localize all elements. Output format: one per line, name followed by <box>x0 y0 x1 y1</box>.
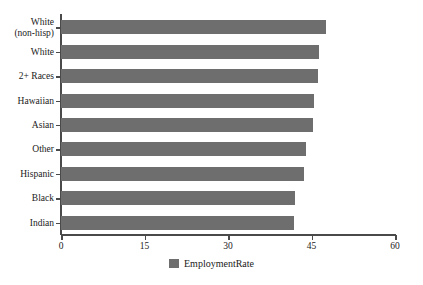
x-axis-tick <box>395 235 397 240</box>
x-axis-tick-label: 30 <box>223 241 233 251</box>
bar-row: Black <box>61 186 395 210</box>
plot-area: White(non-hisp)White2+ RacesHawaiianAsia… <box>61 15 395 235</box>
y-axis-label: 2+ Races <box>19 71 54 82</box>
y-axis-label: White <box>31 46 54 57</box>
y-axis-label: Other <box>32 144 54 155</box>
bar-employmentrate <box>61 69 318 83</box>
y-axis-label: Asian <box>32 120 54 131</box>
bar-row: Hispanic <box>61 162 395 186</box>
bar-employmentrate <box>61 167 304 181</box>
bar-employmentrate <box>61 142 306 156</box>
x-axis-tick <box>312 235 314 240</box>
x-axis-tick <box>228 235 230 240</box>
legend-label-employmentrate: EmploymentRate <box>184 258 254 269</box>
y-axis-label: Hawaiian <box>18 95 54 106</box>
bar-employmentrate <box>61 216 294 230</box>
bar-row: Hawaiian <box>61 88 395 112</box>
bar-employmentrate <box>61 118 313 132</box>
y-axis-label: Hispanic <box>20 169 54 180</box>
bar-row: Indian <box>61 211 395 235</box>
y-axis-label: White(non-hisp) <box>14 17 54 38</box>
y-axis-label: Black <box>32 193 54 204</box>
bar-employmentrate <box>61 191 295 205</box>
bar-employmentrate <box>61 20 326 34</box>
bar-row: Asian <box>61 113 395 137</box>
x-axis-tick-label: 0 <box>59 241 64 251</box>
x-axis-tick <box>145 235 147 240</box>
bar-row: White(non-hisp) <box>61 15 395 39</box>
employment-rate-bar-chart: White(non-hisp)White2+ RacesHawaiianAsia… <box>0 0 423 285</box>
bar-row: 2+ Races <box>61 64 395 88</box>
bar-row: Other <box>61 137 395 161</box>
x-axis-tick-label: 15 <box>140 241 150 251</box>
x-axis-tick <box>61 235 63 240</box>
bar-employmentrate <box>61 45 319 59</box>
chart-legend: EmploymentRate <box>0 258 423 269</box>
bar-employmentrate <box>61 94 314 108</box>
y-axis-label: Indian <box>30 218 54 229</box>
bar-row: White <box>61 39 395 63</box>
x-axis-tick-label: 45 <box>307 241 317 251</box>
x-axis-tick-label: 60 <box>390 241 400 251</box>
legend-swatch-employmentrate <box>169 259 179 268</box>
